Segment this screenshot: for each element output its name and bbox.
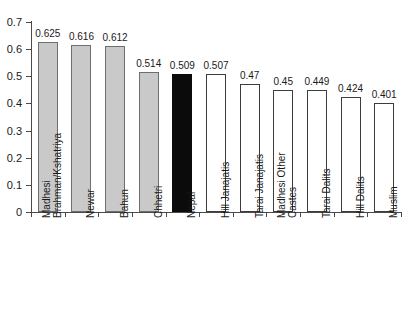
category-label-line: Madhesi Other — [276, 152, 287, 218]
category-label-line: Newar — [85, 189, 96, 218]
x-tick-mark — [367, 212, 368, 217]
x-tick-mark — [65, 212, 66, 217]
x-axis-category-label: Tarai Janajatis — [254, 154, 265, 218]
bar-value-label: 0.401 — [362, 90, 406, 100]
x-tick-mark — [233, 212, 234, 217]
category-label-line: Hill Dalits — [355, 176, 366, 218]
y-tick-label: 0.6 — [0, 44, 22, 55]
y-tick-mark — [26, 49, 31, 50]
x-tick-mark — [401, 212, 402, 217]
y-tick-mark — [26, 158, 31, 159]
y-tick-label: 0 — [0, 207, 22, 218]
x-axis-category-label: Hill Janajatis — [220, 162, 231, 218]
category-label-line: Nepal — [186, 192, 197, 218]
category-label-line: Bahun — [119, 189, 130, 218]
x-axis-category-label: Tarai Dalits — [321, 169, 332, 218]
y-tick-label: 0.3 — [0, 126, 22, 137]
bar — [105, 46, 125, 212]
category-label-line: Brahman/Kshatriya — [52, 133, 63, 218]
y-tick-mark — [26, 185, 31, 186]
category-label-line: Castes — [287, 152, 298, 218]
x-tick-mark — [266, 212, 267, 217]
y-tick-label: 0.1 — [0, 180, 22, 191]
x-axis-category-label: Newar — [85, 189, 96, 218]
y-tick-mark — [26, 22, 31, 23]
category-label-line: Tarai Dalits — [321, 169, 332, 218]
x-tick-mark — [334, 212, 335, 217]
x-axis-category-label: Bahun — [119, 189, 130, 218]
bar-value-label: 0.507 — [194, 61, 238, 71]
y-tick-label: 0.2 — [0, 153, 22, 164]
category-label-line: Madhesi — [41, 180, 52, 218]
y-tick-label: 0.7 — [0, 17, 22, 28]
x-tick-mark — [98, 212, 99, 217]
x-tick-mark — [31, 212, 32, 217]
x-axis-category-label: Muslim — [388, 186, 399, 218]
category-label-line: Tarai Janajatis — [254, 154, 265, 218]
x-axis-category-label: Nepal — [186, 192, 197, 218]
x-tick-mark — [132, 212, 133, 217]
x-tick-mark — [166, 212, 167, 217]
category-label-line: Chhetri — [153, 186, 164, 218]
category-label-line: Muslim — [388, 186, 399, 218]
x-axis-category-label: Chhetri — [153, 186, 164, 218]
y-tick-mark — [26, 103, 31, 104]
y-tick-label: 0.4 — [0, 98, 22, 109]
bar — [71, 45, 91, 212]
category-label-line: Hill Janajatis — [220, 162, 231, 218]
bar-value-label: 0.612 — [93, 33, 137, 43]
x-tick-mark — [199, 212, 200, 217]
x-axis-category-label: MadhesiBrahman/Kshatriya — [41, 133, 63, 218]
bar-chart: 0.70.60.50.40.30.20.10 0.6250.6160.6120.… — [0, 0, 408, 327]
x-tick-mark — [300, 212, 301, 217]
y-tick-label: 0.5 — [0, 71, 22, 82]
y-tick-mark — [26, 131, 31, 132]
y-axis-line — [31, 21, 32, 213]
y-tick-mark — [26, 76, 31, 77]
x-axis-category-label: Hill Dalits — [355, 176, 366, 218]
x-axis-category-label: Madhesi OtherCastes — [276, 152, 298, 218]
